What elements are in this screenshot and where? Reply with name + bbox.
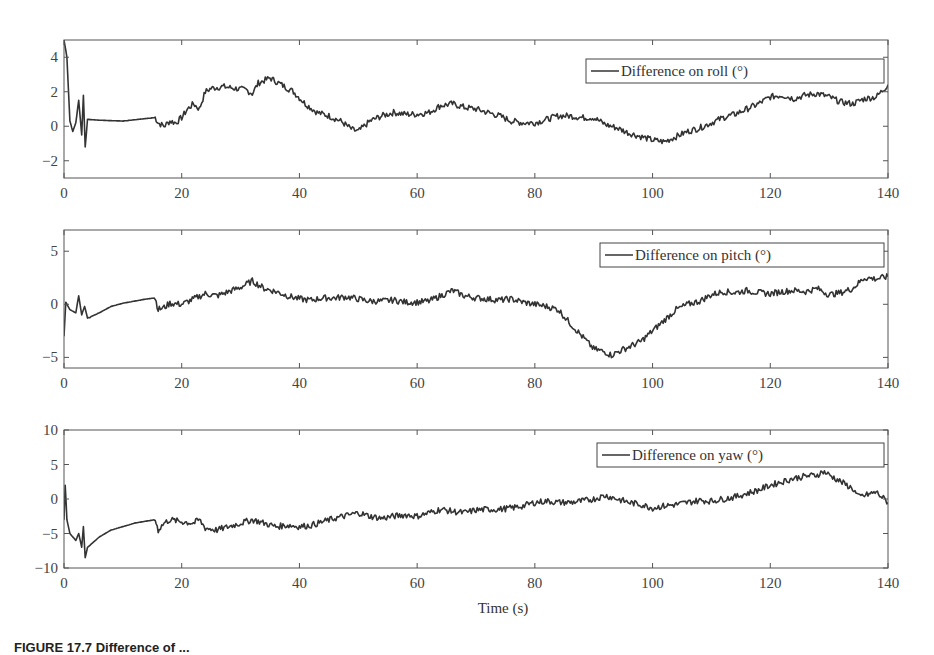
y-tick-label: −10: [35, 560, 58, 576]
y-tick-label: 4: [51, 49, 59, 65]
x-tick-label: 0: [60, 185, 68, 201]
subplot-2: 020406080100120140−505Difference on pitc…: [42, 230, 899, 391]
x-tick-label: 20: [174, 185, 189, 201]
x-axis-label: Time (s): [478, 600, 529, 617]
x-tick-label: 60: [410, 375, 425, 391]
x-tick-label: 60: [410, 185, 425, 201]
x-tick-label: 20: [174, 375, 189, 391]
y-tick-label: 5: [51, 457, 59, 473]
y-tick-label: 2: [51, 84, 59, 100]
x-tick-label: 100: [641, 375, 664, 391]
x-tick-label: 100: [641, 185, 664, 201]
legend-label: Difference on roll (°): [621, 63, 748, 80]
x-tick-label: 120: [759, 575, 782, 591]
x-tick-label: 140: [877, 575, 900, 591]
x-tick-label: 80: [527, 375, 542, 391]
data-line: [64, 40, 888, 147]
x-tick-label: 40: [292, 375, 307, 391]
x-tick-label: 20: [174, 575, 189, 591]
x-tick-label: 120: [759, 375, 782, 391]
x-tick-label: 140: [877, 375, 900, 391]
subplot-1: 020406080100120140−2024Difference on rol…: [42, 40, 899, 201]
x-tick-label: 0: [60, 375, 68, 391]
figure-caption: FIGURE 17.7 Difference of ...: [14, 640, 190, 655]
y-tick-label: 10: [43, 422, 58, 438]
x-tick-label: 60: [410, 575, 425, 591]
legend: Difference on yaw (°): [597, 443, 884, 467]
x-tick-label: 0: [60, 575, 68, 591]
legend-label: Difference on pitch (°): [635, 247, 771, 264]
y-tick-label: −5: [42, 526, 58, 542]
x-tick-label: 140: [877, 185, 900, 201]
y-tick-label: −5: [42, 349, 58, 365]
y-tick-label: 0: [51, 118, 59, 134]
y-tick-label: 0: [51, 491, 59, 507]
y-tick-label: 5: [51, 243, 59, 259]
x-tick-label: 40: [292, 185, 307, 201]
x-tick-label: 80: [527, 575, 542, 591]
x-tick-label: 40: [292, 575, 307, 591]
x-tick-label: 100: [641, 575, 664, 591]
data-line: [64, 274, 888, 358]
y-tick-label: −2: [42, 153, 58, 169]
x-tick-label: 80: [527, 185, 542, 201]
data-line: [64, 471, 888, 558]
x-tick-label: 120: [759, 185, 782, 201]
legend-label: Difference on yaw (°): [632, 447, 763, 464]
legend: Difference on roll (°): [586, 59, 884, 83]
subplot-3: 020406080100120140−10−50510Difference on…: [35, 422, 900, 617]
y-tick-label: 0: [51, 296, 59, 312]
legend: Difference on pitch (°): [600, 243, 884, 267]
